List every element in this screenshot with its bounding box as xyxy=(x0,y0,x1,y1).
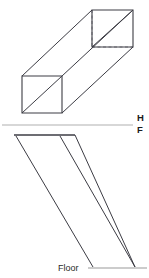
light-ray-left xyxy=(16,136,93,267)
pictorial-prism-group xyxy=(22,10,133,113)
fold-line-group: H F xyxy=(2,112,144,135)
descriptive-geometry-figure: H F Floor xyxy=(0,0,149,278)
prism-far-face-diagonal xyxy=(92,10,133,47)
prism-near-face-diagonal xyxy=(22,76,62,113)
f-view-label: F xyxy=(137,124,143,135)
light-ray-middle xyxy=(60,136,135,267)
floor-label: Floor xyxy=(58,263,79,273)
prism-long-edge-bottom xyxy=(62,47,133,113)
prism-long-edge-top-left xyxy=(22,10,92,76)
shadow-projection-group xyxy=(14,135,135,267)
light-ray-right xyxy=(75,135,135,267)
h-view-label: H xyxy=(137,112,144,123)
technical-drawing: H F Floor xyxy=(0,0,149,278)
